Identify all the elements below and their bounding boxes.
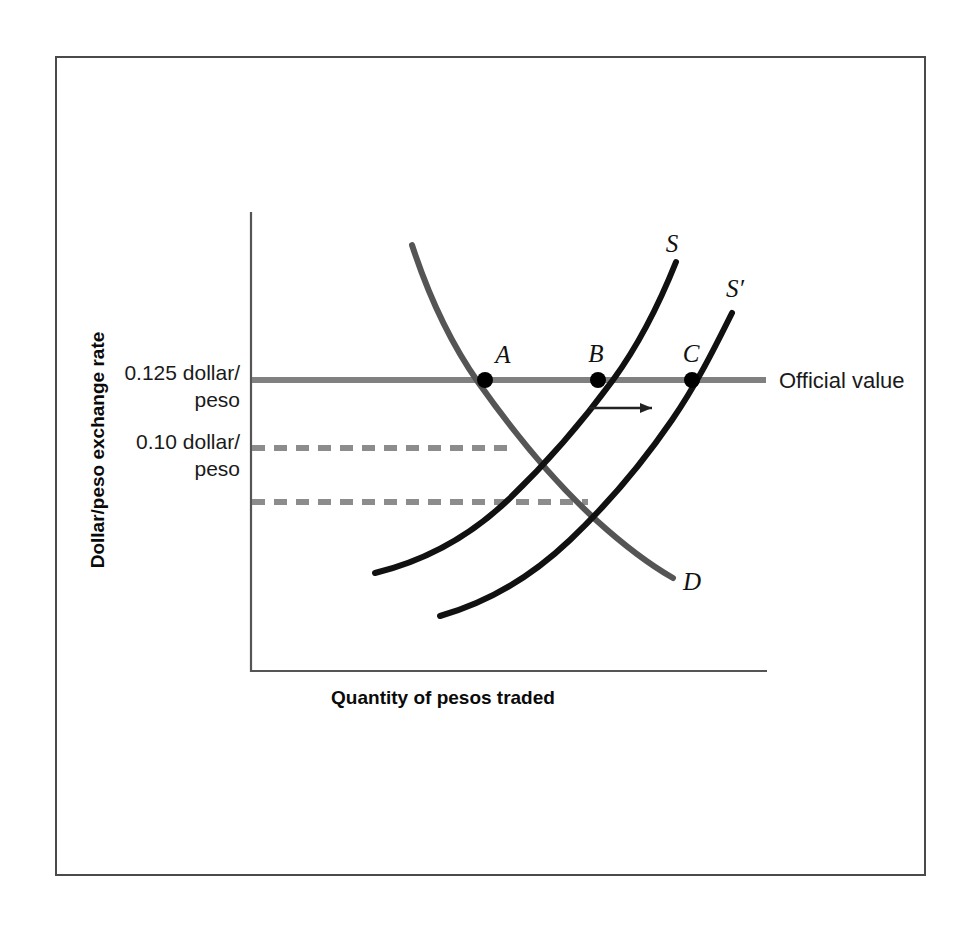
y-axis-title: Dollar/peso exchange rate [87, 332, 108, 569]
x-axis-title: Quantity of pesos traded [331, 687, 555, 708]
point-b-label: B [588, 340, 603, 367]
point-b-marker [590, 372, 606, 388]
tick-label-market-line2: peso [194, 457, 240, 480]
figure-container: A B C S S′ D Official value 0.125 dollar… [0, 0, 972, 926]
supply-shifted-label: S′ [726, 275, 745, 302]
point-c-marker [684, 372, 700, 388]
supply-original-label: S [666, 230, 679, 257]
tick-label-official-line2: peso [194, 388, 240, 411]
tick-label-market-line1: 0.10 dollar/ [136, 430, 240, 453]
tick-label-official-line1: 0.125 dollar/ [124, 361, 240, 384]
official-value-legend: Official value [779, 368, 905, 393]
demand-label: D [682, 568, 701, 595]
economics-chart: A B C S S′ D Official value 0.125 dollar… [0, 0, 972, 926]
point-a-label: A [493, 341, 511, 368]
figure-frame [56, 57, 925, 875]
point-a-marker [477, 372, 493, 388]
point-c-label: C [683, 340, 700, 367]
